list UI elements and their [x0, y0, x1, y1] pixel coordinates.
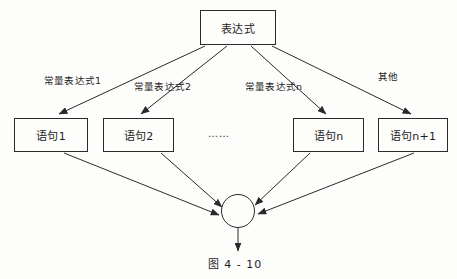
edge-stmt-n1-to-merge	[258, 153, 414, 214]
node-statement-1[interactable]: 语句1	[14, 118, 88, 152]
edge-label-other: 其他	[378, 72, 398, 82]
node-statement-n[interactable]: 语句n	[293, 118, 364, 152]
node-statement-n-plus-1-label: 语句n+1	[390, 127, 437, 143]
figure-caption: 图 4 - 10	[195, 255, 275, 271]
edge-label-case-n: 常量表达式n	[245, 82, 302, 92]
node-statement-n-plus-1[interactable]: 语句n+1	[378, 118, 448, 152]
node-statement-n-label: 语句n	[314, 127, 344, 143]
edge-expression-to-stmt-n	[251, 46, 326, 114]
figure-container: 表达式 语句1 语句2 语句n 语句n+1 常量表达式1 常量表达式2 常量表达…	[0, 0, 457, 279]
node-expression[interactable]: 表达式	[200, 10, 276, 45]
edge-stmt-2-to-merge	[161, 153, 222, 207]
merge-node-circle	[222, 195, 255, 228]
node-statement-2-label: 语句2	[124, 127, 154, 143]
node-statement-1-label: 语句1	[36, 127, 66, 143]
node-statement-2[interactable]: 语句2	[103, 118, 174, 152]
ellipsis-mark: ……	[208, 128, 230, 139]
node-expression-label: 表达式	[221, 20, 255, 36]
edge-label-case-1: 常量表达式1	[44, 76, 101, 86]
edge-label-case-2: 常量表达式2	[134, 82, 191, 92]
